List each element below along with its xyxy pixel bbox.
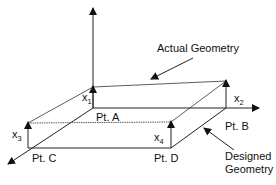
designed-geometry	[28, 108, 226, 148]
pt-c-label: Pt. C	[32, 152, 57, 164]
pt-a-label: Pt. A	[96, 111, 120, 123]
actual-geometry-label: Actual Geometry	[157, 42, 239, 54]
x4-label: x4	[154, 131, 164, 146]
pt-d-label: Pt. D	[154, 152, 179, 164]
designed-geometry-label-line1: Designed	[225, 150, 271, 162]
actual-geometry-pointer	[151, 58, 193, 79]
x1-label: x1	[82, 91, 92, 106]
designed-geometry-label-line2: Geometry	[225, 163, 274, 175]
actual-geometry	[28, 81, 226, 123]
pt-b-label: Pt. B	[225, 120, 249, 132]
x2-label: x2	[234, 92, 244, 107]
geometry-diagram: Actual Geometry Designed Geometry Pt. A …	[0, 0, 276, 185]
x3-label: x3	[12, 128, 22, 143]
